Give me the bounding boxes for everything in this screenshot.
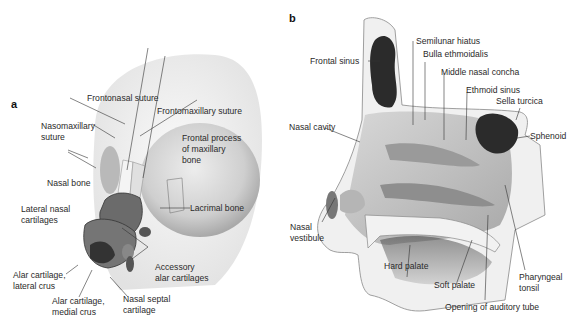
label-frontonasal-suture: Frontonasal suture [87, 93, 159, 103]
label-soft-palate: Soft palate [434, 280, 475, 290]
label-lacrimal-bone: Lacrimal bone [190, 203, 244, 213]
label-hard-palate: Hard palate [384, 261, 428, 271]
label-sphenoid: Sphenoid [530, 131, 566, 141]
panel-letter-b: b [289, 12, 296, 24]
label-frontal-process-line2: of maxillary [182, 144, 225, 154]
panel-a-art [84, 54, 262, 290]
label-alar-medial-crus-line1: Alar cartilage, [52, 296, 105, 306]
label-lateral-nasal-cartilages-line1: Lateral nasal [21, 204, 70, 214]
label-alar-lateral-crus-line1: Alar cartilage, [13, 270, 66, 280]
label-frontal-process-line3: bone [182, 155, 201, 165]
label-accessory-alar-line2: alar cartilages [155, 273, 209, 283]
label-bulla-ethmoidalis: Bulla ethmoidalis [423, 49, 488, 59]
label-nasomaxillary-suture-line2: suture [41, 132, 65, 142]
label-pharyngeal-tonsil-line1: Pharyngeal [519, 272, 562, 282]
label-nasal-septal-cartilage-line1: Nasal septal [123, 294, 170, 304]
label-nasomaxillary-suture-line1: Nasomaxillary [41, 121, 95, 131]
label-frontal-process-line1: Frontal process [182, 133, 241, 143]
label-frontal-sinus: Frontal sinus [310, 56, 359, 66]
label-middle-nasal-concha: Middle nasal concha [441, 67, 519, 77]
label-nasal-vestibule-line2: vestibule [290, 233, 324, 243]
label-nasal-bone: Nasal bone [47, 178, 90, 188]
label-alar-lateral-crus-line2: lateral crus [13, 281, 55, 291]
label-nasal-cavity: Nasal cavity [289, 122, 335, 132]
label-opening-auditory-tube: Opening of auditory tube [445, 302, 539, 312]
label-pharyngeal-tonsil-line2: tonsil [519, 283, 539, 293]
label-nasal-vestibule-line1: Nasal [290, 222, 312, 232]
label-alar-medial-crus-line2: medial crus [52, 307, 96, 317]
label-lateral-nasal-cartilages-line2: cartilages [21, 215, 58, 225]
label-frontomaxillary-suture: Frontomaxillary suture [157, 106, 242, 116]
label-sella-turcica: Sella turcica [496, 96, 543, 106]
panel-letter-a: a [11, 98, 17, 110]
label-nasal-septal-cartilage-line2: cartilage [123, 305, 155, 315]
label-accessory-alar-line1: Accessory [155, 262, 195, 272]
label-semilunar-hiatus: Semilunar hiatus [416, 36, 480, 46]
illustration [0, 0, 577, 327]
label-ethmoid-sinus: Ethmoid sinus [466, 85, 520, 95]
figure-nose-anatomy: a b Frontonasal suture Frontomaxillary s… [0, 0, 577, 327]
